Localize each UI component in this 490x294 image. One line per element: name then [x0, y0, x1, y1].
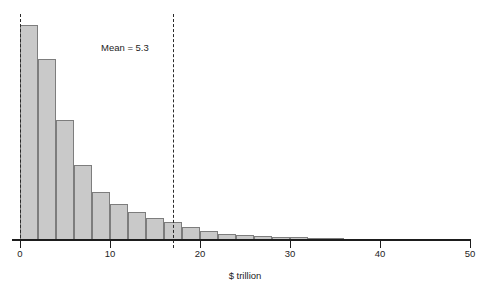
zero-line	[20, 14, 21, 248]
x-axis-title: $ trillion	[0, 270, 490, 281]
mean-annotation-label: Mean = 5.3	[101, 42, 149, 53]
x-tick	[470, 241, 471, 248]
x-tick-label: 10	[95, 248, 125, 259]
histogram-bar	[146, 218, 164, 241]
plot-area	[0, 0, 490, 294]
histogram-figure: 01020304050 Mean = 5.3 $ trillion	[0, 0, 490, 294]
x-tick-label: 30	[275, 248, 305, 259]
histogram-bar	[56, 120, 74, 241]
x-tick-label: 50	[455, 248, 485, 259]
x-tick	[20, 241, 21, 248]
histogram-bar	[92, 192, 110, 241]
x-tick	[290, 241, 291, 248]
x-tick	[200, 241, 201, 248]
histogram-bar	[74, 165, 92, 241]
x-tick	[110, 241, 111, 248]
x-tick-label: 0	[5, 248, 35, 259]
median-line	[173, 14, 174, 248]
histogram-bar	[38, 59, 56, 241]
x-tick	[380, 241, 381, 248]
histogram-bar	[110, 204, 128, 241]
x-tick-label: 20	[185, 248, 215, 259]
x-tick-label: 40	[365, 248, 395, 259]
histogram-bar	[20, 25, 38, 241]
histogram-bar	[128, 212, 146, 241]
x-axis-line	[12, 239, 471, 241]
